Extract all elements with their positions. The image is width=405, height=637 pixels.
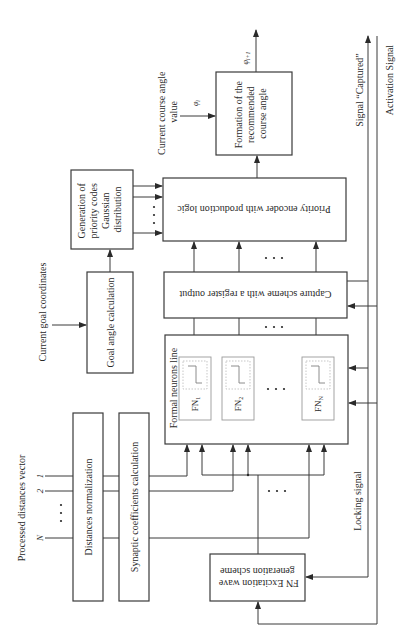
- priority-code-ellipsis: [153, 206, 155, 224]
- input-line-1: [45, 445, 187, 476]
- fn-excitation-block: FN Excitation wave generation scheme: [210, 554, 305, 601]
- generation-label-line3: Gaussian: [100, 192, 111, 229]
- distances-normalization-block: Distances normalization: [73, 413, 103, 601]
- excitation-ellipsis: [268, 490, 286, 492]
- activation-signal-label: Activation Signal: [384, 45, 395, 115]
- phi-i-label: φi: [191, 100, 201, 106]
- priority-encoder-label: Priority encoder with production logic: [177, 204, 331, 215]
- output-angle-label: φi+1: [241, 51, 251, 64]
- fn-excitation-label-line2: generation scheme: [220, 566, 295, 577]
- priority-encoder-block: Priority encoder with production logic: [163, 178, 346, 241]
- capture-encoder-ellipsis: [265, 257, 283, 259]
- svg-text:FN Excitation wave gener: FN Excitation wave generation scheme: [216, 566, 298, 589]
- input-label-2: 2: [35, 488, 45, 493]
- generation-label-line1: Generation of: [76, 182, 87, 238]
- formal-neurons-block: Formal neurons line FN1 FN2 FNN: [165, 335, 348, 444]
- synaptic-coefficients-label: Synaptic coefficients calculation: [129, 442, 140, 572]
- current-goal-coords-label: Current goal coordinates: [37, 262, 48, 361]
- goal-angle-label: Goal angle calculation: [105, 278, 116, 368]
- svg-text:Formation of the recomme: Formation of the recommended course angl…: [233, 79, 268, 149]
- locking-signal-label: Locking signal: [352, 471, 363, 531]
- fn-cell-1: FN1: [179, 357, 211, 420]
- formation-label-line2: recommended: [245, 86, 256, 143]
- generation-priority-codes-block: Generation of priority codes Gaussian di…: [71, 170, 133, 249]
- fn-cell-2: FN2: [222, 357, 254, 420]
- processed-distances-label: Processed distances vector: [16, 454, 27, 561]
- input-label-1: 1: [35, 474, 45, 479]
- fn-excitation-label-line1: FN Excitation wave: [218, 578, 299, 589]
- input-ellipsis: [60, 504, 62, 522]
- neurons-capture-ellipsis: [265, 326, 283, 328]
- goal-angle-block: Goal angle calculation: [87, 272, 133, 373]
- block-diagram: Formation of the recommended course angl…: [0, 0, 405, 637]
- distances-normalization-label: Distances normalization: [83, 459, 94, 556]
- formation-block: Formation of the recommended course angl…: [216, 72, 292, 155]
- formal-neurons-label: Formal neurons line: [168, 347, 179, 428]
- generation-label-line2: priority codes: [88, 183, 99, 238]
- generation-label-line4: distribution: [112, 186, 123, 232]
- input-label-n: N: [35, 534, 45, 542]
- formation-label-line3: course angle: [257, 88, 268, 139]
- junction-dot: [247, 474, 249, 476]
- synaptic-coefficients-block: Synaptic coefficients calculation: [119, 413, 149, 601]
- current-course-angle-label: Current course angle value: [156, 69, 179, 155]
- fn-cell-n: FNN: [302, 357, 334, 420]
- captured-signal-label: Signal “Captured”: [354, 53, 365, 127]
- capture-scheme-block: Capture scheme with a register output: [164, 272, 347, 318]
- formation-label-line1: Formation of the: [233, 81, 244, 149]
- capture-scheme-label: Capture scheme with a register output: [179, 289, 331, 300]
